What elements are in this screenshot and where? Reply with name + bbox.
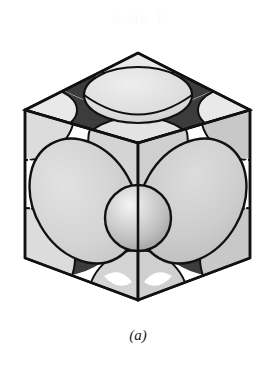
fcc-unit-cell-illustration [0,38,276,310]
ghost-bleedthrough-text: a mu 1 [0,8,276,28]
figure-caption: (a) [0,327,276,344]
figure-root: a mu 1 [0,0,276,365]
